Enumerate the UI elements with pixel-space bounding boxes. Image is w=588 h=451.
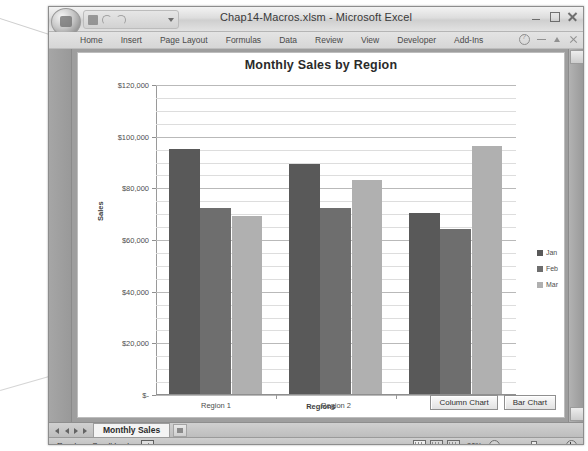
sheet-tab-monthly-sales[interactable]: Monthly Sales [93, 423, 170, 437]
close-window-icon[interactable] [569, 35, 578, 44]
window-controls [530, 10, 579, 23]
zoom-slider-handle[interactable] [531, 441, 537, 446]
ribbon-tab-bar: Home Insert Page Layout Formulas Data Re… [49, 32, 583, 49]
tab-page-layout[interactable]: Page Layout [151, 32, 217, 48]
tab-formulas[interactable]: Formulas [217, 32, 270, 48]
y-axis-tick-label: $120,000 [118, 81, 149, 90]
gridline-minor [156, 98, 516, 99]
status-right-controls: 90% [413, 440, 583, 446]
y-axis-title: Sales [96, 201, 105, 221]
gridline-minor [156, 111, 516, 112]
status-bar: Ready Scroll Lock 90% [49, 437, 583, 445]
legend-label-feb: Feb [546, 265, 558, 272]
tab-data[interactable]: Data [270, 32, 306, 48]
scroll-down-button[interactable] [570, 407, 584, 421]
y-axis-tick [152, 137, 156, 138]
gridline-minor [156, 163, 516, 164]
plot-area: $-$20,000$40,000$60,000$80,000$100,000$1… [156, 85, 516, 395]
page-layout-view-icon[interactable] [430, 440, 443, 446]
first-sheet-icon[interactable] [55, 427, 61, 434]
legend-item-feb: Feb [537, 265, 558, 272]
y-axis-tick [152, 343, 156, 344]
tab-insert[interactable]: Insert [112, 32, 151, 48]
y-axis-tick-label: $40,000 [122, 287, 149, 296]
new-sheet-icon[interactable] [173, 424, 187, 437]
legend-label-jan: Jan [546, 249, 557, 256]
legend-swatch-feb [537, 266, 543, 272]
help-icon[interactable] [519, 34, 530, 45]
zoom-slider[interactable] [504, 441, 562, 446]
record-macro-icon[interactable] [141, 440, 154, 446]
window-title: Chap14-Macros.xlsm - Microsoft Excel [49, 11, 583, 23]
bar-chart-button[interactable]: Bar Chart [504, 395, 556, 410]
bar-jan-3[interactable] [409, 213, 440, 394]
status-mode: Ready [49, 441, 80, 446]
last-sheet-icon[interactable] [82, 427, 88, 434]
legend-label-mar: Mar [546, 281, 558, 288]
tab-developer[interactable]: Developer [388, 32, 445, 48]
chart-title: Monthly Sales by Region [78, 58, 564, 72]
bar-jan-2[interactable] [289, 164, 320, 394]
y-axis-tick [152, 85, 156, 86]
normal-view-icon[interactable] [413, 440, 426, 446]
y-axis-tick-label: $100,000 [118, 132, 149, 141]
vertical-scrollbar[interactable] [568, 49, 583, 422]
bar-mar-1[interactable] [232, 216, 263, 394]
zoom-in-icon[interactable] [566, 440, 577, 446]
gridline-minor [156, 175, 516, 176]
restore-window-icon[interactable] [553, 35, 562, 44]
bar-mar-2[interactable] [352, 180, 383, 394]
gridline-major [156, 137, 516, 138]
sheet-nav-buttons [49, 427, 93, 434]
y-axis-tick [152, 240, 156, 241]
title-bar: Chap14-Macros.xlsm - Microsoft Excel [49, 7, 583, 32]
row-header-strip [49, 49, 72, 422]
bar-feb-2[interactable] [320, 208, 351, 394]
bar-jan-1[interactable] [169, 149, 200, 394]
y-axis-tick-label: $60,000 [122, 236, 149, 245]
next-sheet-icon[interactable] [73, 427, 79, 434]
minimize-button[interactable] [530, 10, 543, 23]
bar-feb-3[interactable] [440, 229, 471, 394]
gridline-major [156, 188, 516, 189]
screenshot-root: Chap14-Macros.xlsm - Microsoft Excel Hom… [0, 0, 588, 451]
excel-window: Chap14-Macros.xlsm - Microsoft Excel Hom… [48, 6, 584, 445]
legend-item-jan: Jan [537, 249, 558, 256]
y-axis-tick [152, 188, 156, 189]
gridline-major [156, 85, 516, 86]
zoom-out-icon[interactable] [489, 440, 500, 446]
x-axis-category-label: Region 1 [201, 401, 231, 410]
bar-mar-3[interactable] [472, 146, 503, 394]
y-axis-tick-label: $- [142, 391, 149, 400]
form-button-row: Column Chart Bar Chart [430, 395, 556, 410]
status-scroll-lock: Scroll Lock [80, 441, 131, 446]
chart-legend: Jan Feb Mar [537, 249, 558, 288]
prev-sheet-icon[interactable] [64, 427, 70, 434]
y-axis-tick [152, 292, 156, 293]
legend-item-mar: Mar [537, 281, 558, 288]
tab-add-ins[interactable]: Add-Ins [445, 32, 492, 48]
ribbon-tabs: Home Insert Page Layout Formulas Data Re… [71, 32, 492, 48]
column-chart-button[interactable]: Column Chart [430, 395, 497, 410]
legend-swatch-jan [537, 250, 543, 256]
y-axis-tick-label: $80,000 [122, 184, 149, 193]
restore-button[interactable] [548, 10, 561, 23]
worksheet-area: Monthly Sales by Region Sales Regions $-… [49, 49, 583, 422]
scroll-up-button[interactable] [570, 50, 584, 64]
x-axis-tick [276, 395, 277, 399]
gridline-minor [156, 201, 516, 202]
x-axis-tick [396, 395, 397, 399]
bar-feb-1[interactable] [200, 208, 231, 394]
y-axis-tick-label: $20,000 [122, 339, 149, 348]
tab-review[interactable]: Review [306, 32, 352, 48]
zoom-level-label: 90% [464, 441, 485, 446]
gridline-minor [156, 150, 516, 151]
sheet-tab-bar: Monthly Sales [49, 422, 583, 437]
minimize-ribbon-icon[interactable] [537, 35, 546, 44]
gridline-minor [156, 124, 516, 125]
tab-view[interactable]: View [352, 32, 388, 48]
chart-object[interactable]: Monthly Sales by Region Sales Regions $-… [77, 52, 565, 418]
page-break-preview-icon[interactable] [447, 440, 460, 446]
tab-home[interactable]: Home [71, 32, 112, 48]
close-button[interactable] [566, 10, 579, 23]
